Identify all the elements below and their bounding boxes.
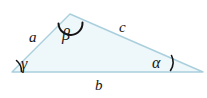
side-label-a: a — [29, 30, 37, 45]
angle-label-gamma: γ — [21, 56, 27, 72]
triangle-drawing — [0, 0, 207, 98]
angle-label-beta: β — [62, 27, 70, 43]
triangle-figure: a b c α β γ — [0, 0, 207, 98]
triangle-shape — [12, 14, 203, 72]
angle-label-alpha: α — [152, 55, 160, 71]
side-label-c: c — [119, 20, 126, 35]
side-label-b: b — [95, 78, 103, 93]
